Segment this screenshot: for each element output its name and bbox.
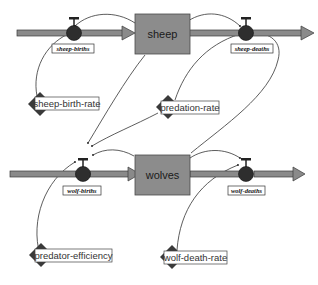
variable-label: wolf-death-rate xyxy=(163,252,227,263)
variable-predation-rate[interactable]: predation-rate xyxy=(156,95,220,119)
variable-predator-efficiency[interactable]: predator-efficiency xyxy=(29,243,113,267)
pipe-sheep-births-in xyxy=(17,30,72,36)
stock-wolves[interactable]: wolves xyxy=(135,155,190,195)
valve-handle-icon xyxy=(78,158,88,161)
valve-body-icon xyxy=(239,167,254,182)
link-sheep-to-sheep-deaths xyxy=(188,14,240,26)
stock-wolves-label: wolves xyxy=(145,169,180,181)
arrowhead-sheep-deaths-out xyxy=(301,26,314,40)
arrowhead-wolf-deaths-out xyxy=(293,167,305,181)
valve-label: sheep-deaths xyxy=(234,45,270,52)
link-sheep-to-sheep-births xyxy=(75,14,135,26)
pipe-sheep-deaths-in xyxy=(189,30,239,36)
link-sheep-birth-rate-to-sheep-births xyxy=(36,34,68,96)
valve-label: sheep-births xyxy=(56,45,90,52)
variable-label: sheep-birth-rate xyxy=(33,98,100,109)
variable-wolf-death-rate[interactable]: wolf-death-rate xyxy=(160,245,227,269)
stock-flow-diagram: sheep wolves sheep-births sheep-deaths w… xyxy=(0,0,318,285)
pipe-wolf-births-out xyxy=(90,171,129,177)
pipe-wolf-deaths-out xyxy=(254,171,294,177)
variable-sheep-birth-rate[interactable]: sheep-birth-rate xyxy=(28,92,101,116)
valve-label: wolf-deaths xyxy=(231,187,263,194)
valve-body-icon xyxy=(239,26,254,41)
pipe-wolf-deaths-in xyxy=(190,171,240,177)
pipe-sheep-deaths-out xyxy=(252,30,302,36)
link-wolves-to-wolf-deaths xyxy=(190,151,240,159)
valve-body-icon xyxy=(76,167,91,182)
variable-label: predation-rate xyxy=(160,102,219,113)
valve-handle-icon xyxy=(69,17,79,20)
valve-handle-icon xyxy=(241,158,251,161)
arrowhead-into-sheep xyxy=(122,26,135,40)
stock-sheep[interactable]: sheep xyxy=(135,14,190,54)
valve-body-icon xyxy=(67,26,82,41)
link-wolves-to-wolf-births xyxy=(93,150,134,156)
pipe-wolf-births-in xyxy=(10,171,76,177)
link-predation-rate-to-wolf-births xyxy=(92,113,158,146)
valve-handle-icon xyxy=(241,17,251,20)
variable-label: predator-efficiency xyxy=(35,250,113,261)
pipe-sheep-births-out xyxy=(78,30,123,36)
stock-sheep-label: sheep xyxy=(148,28,178,40)
valve-label: wolf-births xyxy=(67,187,97,194)
